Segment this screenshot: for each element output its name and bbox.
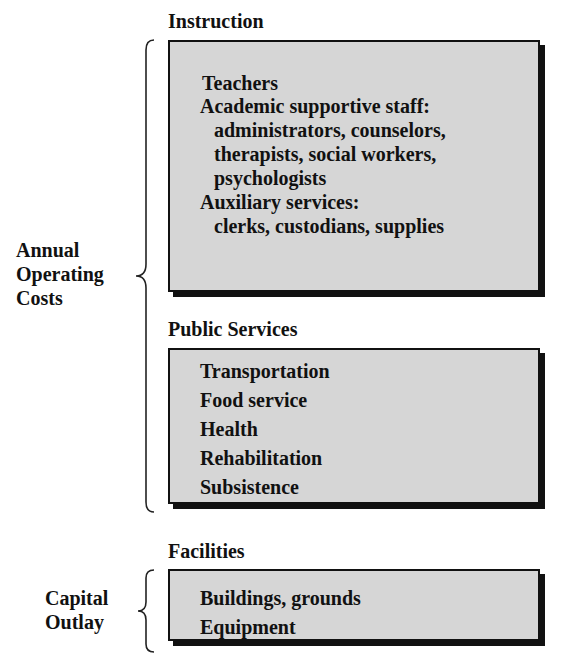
label-line: Annual	[16, 238, 104, 262]
list-item: Food service	[200, 389, 307, 412]
list-item: Teachers	[202, 72, 278, 95]
list-item: clerks, custodians, supplies	[214, 215, 444, 238]
instruction-box: Teachers Academic supportive staff: admi…	[168, 40, 540, 292]
list-item: Equipment	[200, 616, 296, 639]
capital-outlay-label: Capital Outlay	[45, 586, 108, 634]
brace-icon	[132, 568, 156, 654]
section-title-instruction: Instruction	[168, 10, 264, 32]
list-item: psychologists	[214, 167, 326, 190]
label-line: Costs	[16, 286, 104, 310]
list-item: Academic supportive staff:	[200, 95, 430, 118]
label-line: Capital	[45, 586, 108, 610]
label-line: Outlay	[45, 610, 108, 634]
label-line: Operating	[16, 262, 104, 286]
list-item: Health	[200, 418, 258, 441]
brace-icon	[132, 38, 156, 514]
list-item: therapists, social workers,	[214, 143, 436, 166]
list-item: Subsistence	[200, 476, 299, 499]
list-item: Buildings, grounds	[200, 587, 361, 610]
section-title-public-services: Public Services	[168, 318, 297, 340]
public-services-box: Transportation Food service Health Rehab…	[168, 348, 540, 504]
section-title-facilities: Facilities	[168, 540, 245, 562]
facilities-box: Buildings, grounds Equipment	[168, 569, 540, 641]
list-item: Auxiliary services:	[200, 191, 359, 214]
list-item: administrators, counselors,	[214, 119, 446, 142]
list-item: Transportation	[200, 360, 330, 383]
list-item: Rehabilitation	[200, 447, 322, 470]
annual-operating-costs-label: Annual Operating Costs	[16, 238, 104, 310]
